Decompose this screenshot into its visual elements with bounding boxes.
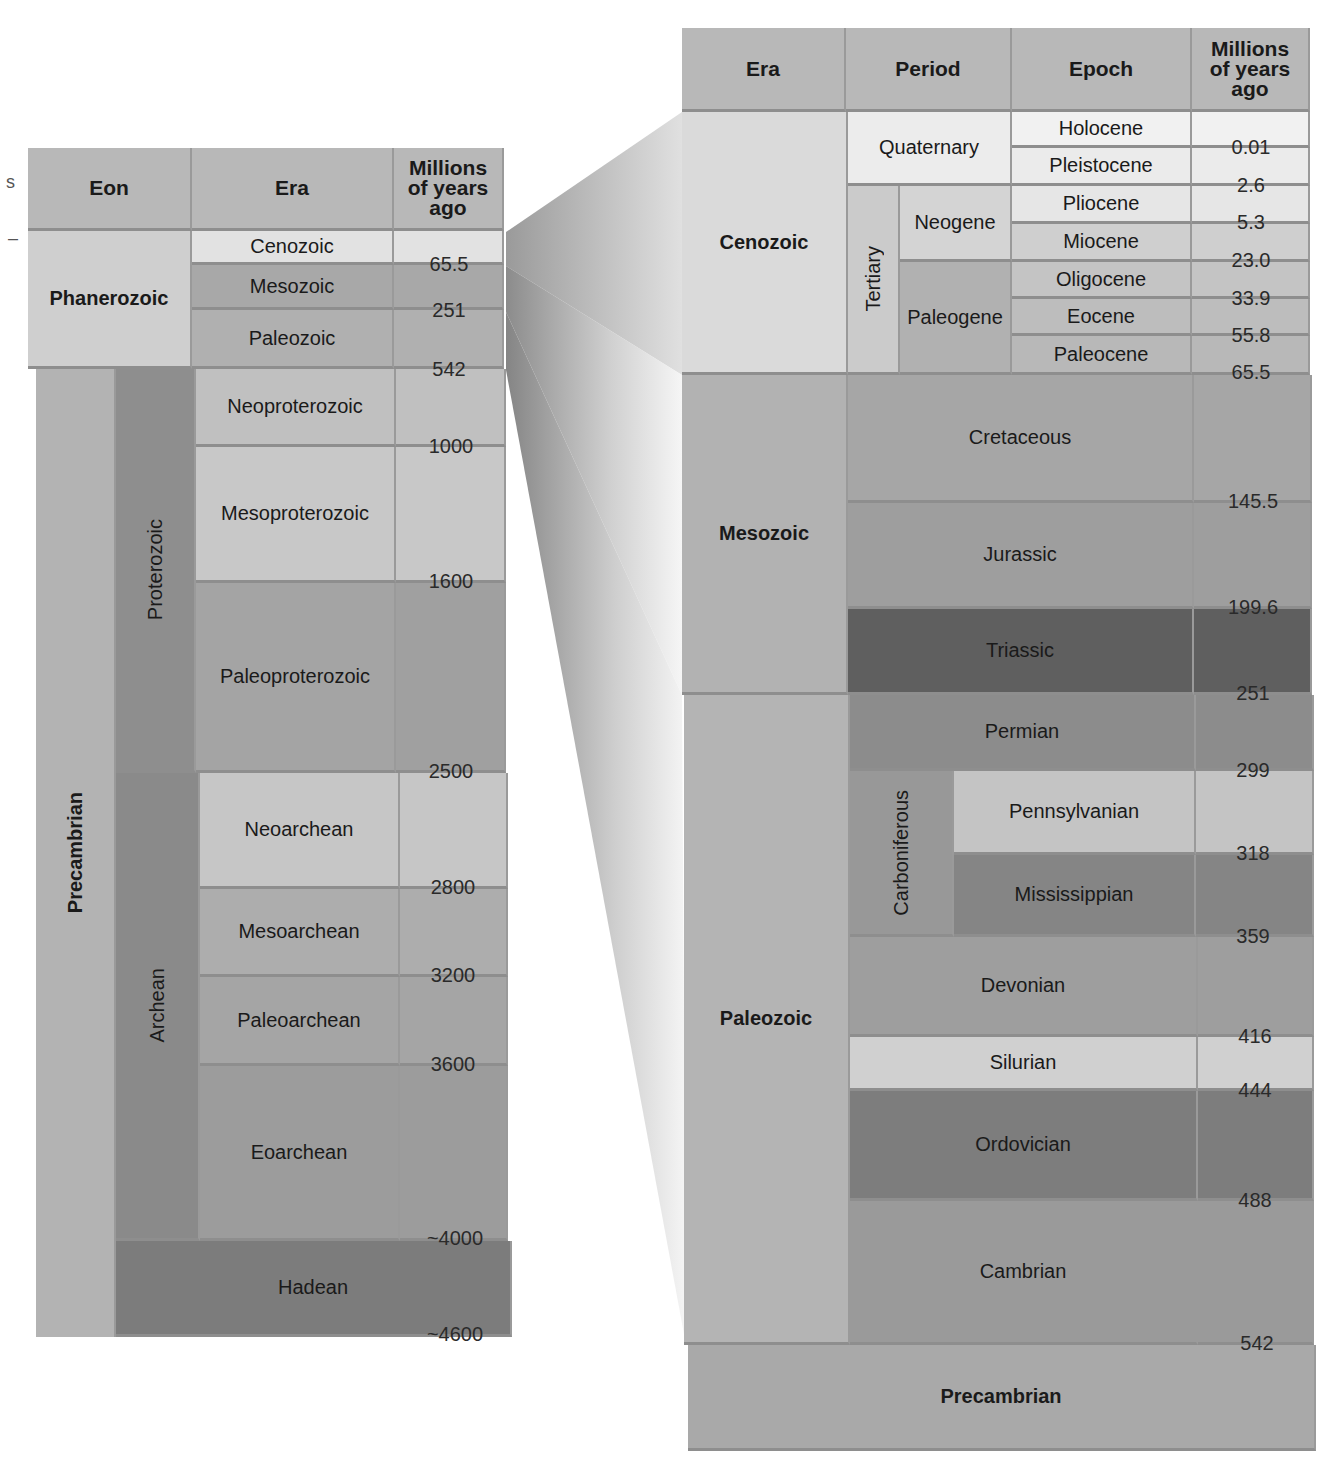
- eon-proterozoic-label: Proterozoic: [144, 519, 167, 620]
- subperiod-mississippian: Mississippian: [954, 855, 1196, 937]
- era-neoproterozoic: Neoproterozoic: [196, 369, 396, 447]
- era-mesoproterozoic: Mesoproterozoic: [196, 447, 396, 583]
- boundary-value: 5.3: [1237, 211, 1265, 234]
- boundary-value: 55.8: [1232, 324, 1271, 347]
- eon-phanerozoic: Phanerozoic: [28, 231, 192, 369]
- boundary-value: ~4600: [427, 1323, 483, 1346]
- era-precambrian: Precambrian: [688, 1345, 1316, 1451]
- epoch-pliocene: Pliocene: [1012, 186, 1192, 224]
- period-triassic: Triassic: [848, 609, 1194, 695]
- boundary-value: 0.01: [1232, 136, 1271, 159]
- mya-cell: [1198, 937, 1314, 1037]
- boundary-value: 542: [1240, 1332, 1273, 1355]
- era-mesozoic: Mesozoic: [192, 265, 394, 310]
- epoch-paleocene: Paleocene: [1012, 336, 1192, 375]
- mya-cell: [1194, 375, 1312, 503]
- eon-archean: Archean: [116, 773, 200, 1241]
- boundary-value: 488: [1238, 1189, 1271, 1212]
- boundary-value: 251: [432, 299, 465, 322]
- mya-cell: [400, 1066, 508, 1241]
- epoch-eocene: Eocene: [1012, 299, 1192, 336]
- era-paleoarchean: Paleoarchean: [200, 977, 400, 1066]
- header-mya: Millions of years ago: [394, 148, 504, 231]
- mya-cell: [396, 583, 506, 773]
- boundary-value: 145.5: [1228, 490, 1278, 513]
- boundary-value: 23.0: [1232, 249, 1271, 272]
- boundary-value: 318: [1236, 842, 1269, 865]
- period-quaternary: Quaternary: [848, 112, 1012, 186]
- subera-tertiary: Tertiary: [848, 186, 900, 375]
- header-era: Era: [192, 148, 394, 231]
- period-silurian: Silurian: [850, 1037, 1198, 1091]
- header-era: Era: [682, 28, 846, 112]
- period-jurassic: Jurassic: [848, 503, 1194, 609]
- era-cenozoic: Cenozoic: [682, 112, 848, 375]
- boundary-value: 3200: [431, 964, 476, 987]
- era-paleozoic: Paleozoic: [684, 695, 850, 1345]
- mya-cell: [400, 773, 508, 889]
- subera-tertiary-label: Tertiary: [862, 246, 885, 312]
- period-neogene: Neogene: [900, 186, 1012, 262]
- epoch-oligocene: Oligocene: [1012, 262, 1192, 299]
- period-carboniferous-label: Carboniferous: [890, 790, 913, 916]
- period-ordovician: Ordovician: [850, 1091, 1198, 1201]
- epoch-pleistocene: Pleistocene: [1012, 148, 1192, 186]
- era-eoarchean: Eoarchean: [200, 1066, 400, 1241]
- era-cenozoic: Cenozoic: [192, 231, 394, 265]
- period-permian: Permian: [850, 695, 1196, 771]
- period-carboniferous: Carboniferous: [850, 771, 954, 937]
- boundary-value: 1000: [429, 435, 474, 458]
- boundary-value: 299: [1236, 759, 1269, 782]
- eon-precambrian-label: Precambrian: [64, 792, 87, 913]
- boundary-value: 444: [1238, 1079, 1271, 1102]
- boundary-value: 251: [1236, 682, 1269, 705]
- mya-cell: [396, 447, 506, 583]
- mya-cell: [1198, 1091, 1314, 1201]
- boundary-value: 2500: [429, 760, 474, 783]
- header-epoch: Epoch: [1012, 28, 1192, 112]
- eon-proterozoic: Proterozoic: [116, 369, 196, 773]
- eon-archean-label: Archean: [146, 968, 169, 1043]
- mya-cell: [1198, 1201, 1314, 1345]
- epoch-holocene: Holocene: [1012, 112, 1192, 148]
- period-paleogene: Paleogene: [900, 262, 1012, 375]
- era-mesoarchean: Mesoarchean: [200, 889, 400, 977]
- era-mesozoic: Mesozoic: [682, 375, 848, 695]
- boundary-value: 65.5: [1232, 361, 1271, 384]
- header-period: Period: [846, 28, 1012, 112]
- era-paleozoic: Paleozoic: [192, 310, 394, 369]
- subperiod-pennsylvanian: Pennsylvanian: [954, 771, 1196, 855]
- boundary-value: 65.5: [430, 253, 469, 276]
- period-devonian: Devonian: [850, 937, 1198, 1037]
- boundary-value: ~4000: [427, 1227, 483, 1250]
- boundary-value: 1600: [429, 570, 474, 593]
- epoch-miocene: Miocene: [1012, 224, 1192, 262]
- mya-cell: [1194, 503, 1312, 609]
- era-paleoproterozoic: Paleoproterozoic: [196, 583, 396, 773]
- boundary-value: 416: [1238, 1025, 1271, 1048]
- boundary-value: 3600: [431, 1053, 476, 1076]
- period-cretaceous: Cretaceous: [848, 375, 1194, 503]
- boundary-value: 359: [1236, 925, 1269, 948]
- era-neoarchean: Neoarchean: [200, 773, 400, 889]
- boundary-value: 199.6: [1228, 596, 1278, 619]
- header-mya: Millions of years ago: [1192, 28, 1310, 112]
- boundary-value: 542: [432, 358, 465, 381]
- period-cambrian: Cambrian: [850, 1201, 1198, 1345]
- boundary-value: 2.6: [1237, 174, 1265, 197]
- boundary-value: 33.9: [1232, 287, 1271, 310]
- header-eon: Eon: [28, 148, 192, 231]
- boundary-value: 2800: [431, 876, 476, 899]
- eon-precambrian: Precambrian: [36, 369, 116, 1337]
